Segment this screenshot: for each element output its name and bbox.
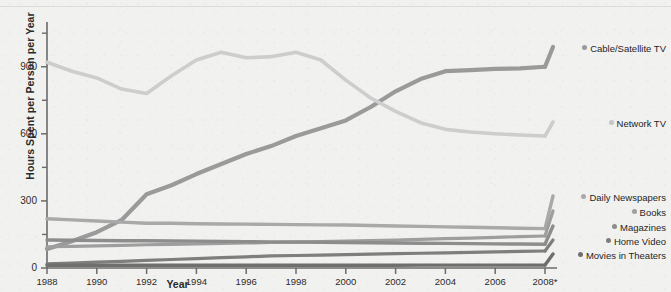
- series-line-magazines: [47, 240, 545, 244]
- data-series-lines: [47, 52, 545, 265]
- legend-leader-0: [545, 47, 553, 67]
- legend-label: Magazines: [620, 222, 666, 233]
- legend-label: Movies in Theaters: [586, 250, 666, 261]
- legend-item-daily-newspapers[interactable]: Daily Newspapers: [581, 191, 666, 203]
- legend-item-home-video[interactable]: Home Video: [606, 235, 666, 247]
- legend-item-magazines[interactable]: Magazines: [612, 221, 666, 233]
- legend-item-network-tv[interactable]: Network TV: [609, 117, 666, 129]
- series-line-home-video: [47, 251, 545, 264]
- legend-swatch-icon: [632, 209, 637, 214]
- legend-item-cable-satellite-tv[interactable]: Cable/Satellite TV: [582, 42, 666, 54]
- legend-leader-1: [545, 122, 553, 136]
- legend-swatch-icon: [582, 45, 587, 50]
- legend-item-books[interactable]: Books: [632, 206, 666, 218]
- legend-swatch-icon: [578, 252, 583, 257]
- series-line-network-tv: [47, 52, 545, 136]
- legend-leader-lines: [545, 47, 553, 265]
- legend-item-movies-in-theaters[interactable]: Movies in Theaters: [578, 249, 666, 261]
- legend-swatch-icon: [612, 224, 617, 229]
- legend-swatch-icon: [609, 120, 614, 125]
- legend-label: Home Video: [614, 236, 666, 247]
- legend-label: Daily Newspapers: [589, 192, 666, 203]
- legend-swatch-icon: [581, 194, 586, 199]
- legend-swatch-icon: [606, 238, 611, 243]
- line-chart-plot: [0, 0, 671, 292]
- axis-lines: [47, 22, 557, 268]
- legend-label: Books: [640, 207, 666, 218]
- chart-container: Hours Spent per Person per Year Year 900…: [0, 0, 671, 292]
- legend-label: Network TV: [617, 118, 666, 129]
- legend-label: Cable/Satellite TV: [590, 43, 666, 54]
- legend-leader-6: [545, 254, 553, 265]
